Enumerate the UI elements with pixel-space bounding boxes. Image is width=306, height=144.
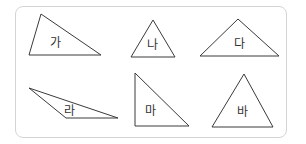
- triangle-ma: 마: [135, 73, 189, 126]
- triangles-diagram: 가 나 다 라 마 바: [0, 0, 306, 144]
- triangle-ra-label: 라: [64, 104, 75, 118]
- triangle-na: 나: [131, 20, 175, 57]
- triangle-ga: 가: [29, 14, 101, 55]
- triangle-da: 다: [200, 19, 279, 56]
- triangle-ba: 바: [212, 74, 273, 127]
- triangle-ga-label: 가: [50, 36, 61, 50]
- triangle-ma-label: 마: [145, 104, 156, 118]
- triangle-ba-shape: [212, 74, 273, 127]
- triangle-ra: 라: [29, 88, 118, 118]
- triangle-ga-shape: [29, 14, 101, 55]
- triangle-da-label: 다: [234, 37, 245, 51]
- triangle-ba-label: 바: [237, 105, 248, 119]
- triangle-na-label: 나: [147, 38, 158, 52]
- triangle-ma-shape: [135, 73, 189, 126]
